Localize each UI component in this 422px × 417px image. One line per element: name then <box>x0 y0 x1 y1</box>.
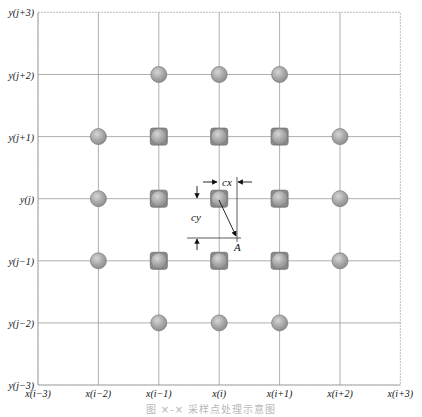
y-tick-label: y(j+1) <box>7 132 34 144</box>
circle-sample-marker <box>332 253 348 269</box>
circle-sample-marker <box>332 191 348 207</box>
circle-sample-marker <box>211 315 227 331</box>
y-tick-label: y(j) <box>19 194 35 206</box>
x-tick-label: x(i) <box>211 388 227 400</box>
circle-sample-marker <box>151 315 167 331</box>
circle-sample-marker <box>90 129 106 145</box>
x-tick-label: x(i+1) <box>266 388 293 400</box>
figure-caption: 图 ×-× 采样点处理示意图 <box>0 401 422 416</box>
x-tick-label: x(i+2) <box>326 388 353 400</box>
circle-sample-marker <box>90 191 106 207</box>
cy-label: cy <box>191 211 201 223</box>
circle-sample-marker <box>211 67 227 83</box>
circle-sample-marker <box>272 191 288 207</box>
circle-sample-marker <box>272 315 288 331</box>
x-tick-label: x(i+3) <box>387 388 414 400</box>
circle-sample-marker <box>272 129 288 145</box>
circle-sample-marker <box>211 129 227 145</box>
circle-sample-marker <box>211 253 227 269</box>
y-tick-label: y(j−2) <box>7 318 34 330</box>
sampling-grid-diagram: y(j−3)y(j−2)y(j−1)y(j)y(j+1)y(j+2)y(j+3)… <box>0 0 422 400</box>
circle-sample-marker <box>151 253 167 269</box>
cx-label: cx <box>222 176 232 188</box>
circle-sample-marker <box>272 67 288 83</box>
x-tick-label: x(i−3) <box>24 388 51 400</box>
circle-sample-marker <box>332 129 348 145</box>
y-tick-label: y(j−1) <box>7 256 34 268</box>
circle-sample-marker <box>151 67 167 83</box>
circle-sample-marker <box>272 253 288 269</box>
circle-sample-marker <box>211 191 227 207</box>
y-tick-label: y(j+2) <box>7 70 34 82</box>
circle-sample-marker <box>151 129 167 145</box>
x-tick-label: x(i−2) <box>85 388 112 400</box>
y-tick-label: y(j+3) <box>7 7 34 19</box>
point-a-label: A <box>233 241 241 253</box>
x-tick-label: x(i−1) <box>145 388 172 400</box>
circle-sample-marker <box>151 191 167 207</box>
circle-sample-marker <box>90 253 106 269</box>
